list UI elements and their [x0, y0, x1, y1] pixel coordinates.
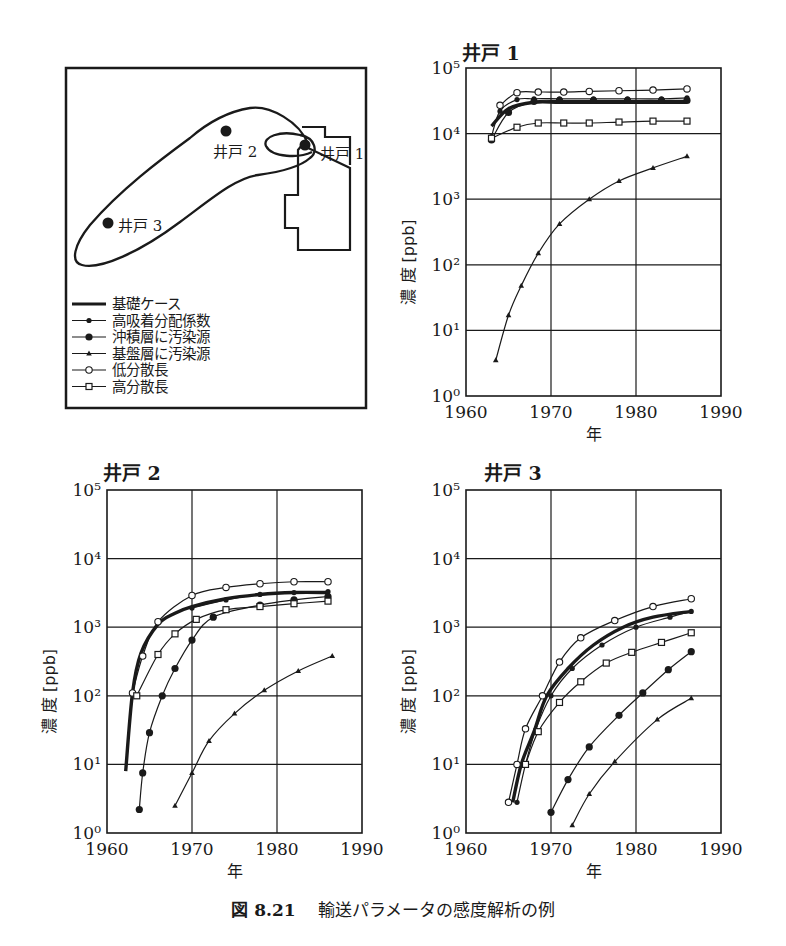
marker-open-circle — [586, 88, 592, 94]
marker-open-circle — [522, 726, 528, 732]
marker-open-square — [155, 651, 161, 657]
marker-small-filled-circle — [257, 592, 262, 597]
y-tick-label: 10⁴ — [432, 124, 461, 144]
marker-filled-circle — [136, 806, 143, 813]
marker-filled-circle — [683, 97, 690, 104]
marker-open-circle — [535, 89, 541, 95]
marker-open-square — [616, 119, 622, 125]
marker-filled-circle — [688, 648, 695, 655]
marker-open-circle — [257, 581, 263, 587]
marker-open-circle — [514, 90, 520, 96]
legend-label: 沖積層に汚染源 — [112, 329, 211, 345]
marker-open-square — [193, 616, 199, 622]
marker-filled-circle — [159, 692, 166, 699]
y-tick-label: 10² — [432, 255, 460, 275]
marker-small-filled-circle — [570, 666, 575, 671]
marker-small-filled-circle — [497, 109, 502, 114]
y-tick-label: 10¹ — [432, 320, 460, 340]
marker-filled-circle — [639, 689, 646, 696]
chart-well-1: 井戸 110⁰10¹10²10³10⁴10⁵1960197019801990年濃… — [399, 42, 743, 444]
marker-open-square — [257, 604, 263, 610]
marker-open-circle — [86, 367, 92, 373]
marker-open-circle — [155, 619, 161, 625]
marker-filled-circle — [188, 636, 195, 643]
y-axis-label: 濃 度 [ppb] — [40, 649, 59, 734]
series-line — [509, 599, 692, 803]
y-tick-label: 10² — [432, 686, 460, 706]
marker-open-circle — [616, 88, 622, 94]
plot-frame — [107, 490, 362, 833]
series — [523, 630, 695, 768]
series-line — [526, 633, 692, 765]
marker-open-square — [86, 384, 92, 390]
series-line — [175, 656, 332, 806]
marker-filled-circle — [624, 97, 631, 104]
marker-filled-triangle — [684, 153, 690, 158]
x-axis-label: 年 — [227, 862, 243, 881]
x-tick-label: 1960 — [444, 839, 487, 859]
marker-filled-circle — [146, 729, 153, 736]
well-1-label: 井戸 1 — [320, 145, 364, 163]
legend-item: 基礎ケース — [72, 296, 181, 312]
series — [136, 593, 332, 813]
caption-text: 輸送パラメータの感度解析の例 — [318, 900, 555, 920]
x-tick-label: 1960 — [444, 402, 487, 422]
marker-open-square — [684, 118, 690, 124]
plot-frame — [466, 490, 721, 833]
marker-open-square — [659, 639, 665, 645]
marker-open-square — [514, 124, 520, 130]
marker-small-filled-circle — [189, 605, 194, 610]
series-line — [139, 597, 328, 810]
legend-label: 基盤層に汚染源 — [112, 346, 211, 362]
chart-well-3: 井戸 310⁰10¹10²10³10⁴10⁵1960197019801990年濃… — [399, 462, 743, 881]
marker-small-filled-circle — [633, 625, 638, 630]
x-tick-label: 1990 — [340, 839, 383, 859]
marker-open-circle — [140, 653, 146, 659]
marker-filled-circle — [590, 97, 597, 104]
y-tick-label: 10⁴ — [73, 549, 102, 569]
marker-filled-triangle — [493, 357, 499, 362]
series — [489, 118, 691, 141]
well-3-marker — [103, 218, 114, 229]
series — [547, 648, 694, 816]
marker-open-circle — [291, 579, 297, 585]
x-tick-label: 1980 — [255, 839, 298, 859]
series — [569, 695, 694, 827]
legend-label: 高分散長 — [112, 379, 169, 395]
marker-filled-triangle — [518, 283, 524, 288]
legend-label: 高吸着分配係数 — [112, 313, 211, 329]
series-line — [137, 601, 328, 696]
series-line — [496, 156, 687, 360]
marker-open-circle — [497, 102, 503, 108]
marker-small-filled-circle — [514, 800, 519, 805]
marker-filled-circle — [547, 809, 554, 816]
marker-filled-circle — [665, 666, 672, 673]
marker-filled-triangle — [329, 653, 335, 658]
marker-filled-circle — [171, 665, 178, 672]
marker-open-square — [172, 631, 178, 637]
marker-filled-triangle — [189, 770, 195, 775]
marker-filled-triangle — [172, 803, 178, 808]
marker-filled-triangle — [261, 687, 267, 692]
well-2-label: 井戸 2 — [213, 143, 257, 161]
x-tick-label: 1970 — [529, 402, 572, 422]
series — [172, 653, 335, 808]
marker-open-square — [325, 598, 331, 604]
marker-open-circle — [189, 592, 195, 598]
y-tick-label: 10¹ — [432, 754, 460, 774]
marker-filled-circle — [615, 712, 622, 719]
x-tick-label: 1960 — [85, 839, 128, 859]
y-tick-label: 10³ — [432, 617, 460, 637]
x-axis-label: 年 — [586, 425, 602, 444]
caption-number: 図 8.21 — [231, 900, 295, 920]
marker-open-square — [629, 649, 635, 655]
site-map-panel: 井戸 2 井戸 1 井戸 3 基礎ケース高吸着分配係数沖積層に汚染源基盤層に汚染… — [66, 68, 366, 408]
marker-open-square — [578, 679, 584, 685]
x-tick-label: 1980 — [614, 839, 657, 859]
marker-open-square — [489, 135, 495, 141]
marker-small-filled-circle — [548, 693, 553, 698]
legend-item: 沖積層に汚染源 — [72, 329, 211, 345]
legend: 基礎ケース高吸着分配係数沖積層に汚染源基盤層に汚染源低分散長高分散長 — [72, 296, 211, 395]
marker-small-filled-circle — [291, 590, 296, 595]
figure-canvas: 井戸 2 井戸 1 井戸 3 基礎ケース高吸着分配係数沖積層に汚染源基盤層に汚染… — [0, 0, 786, 946]
